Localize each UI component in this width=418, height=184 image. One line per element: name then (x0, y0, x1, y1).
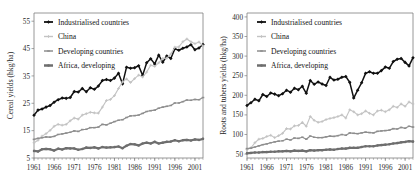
data-point (141, 142, 144, 145)
data-point (69, 132, 72, 134)
data-point (313, 149, 316, 152)
data-point (47, 20, 51, 24)
legend-label: China (271, 32, 290, 41)
data-point (297, 150, 300, 153)
data-point (317, 137, 320, 139)
legend-label: Industrialised countries (271, 18, 342, 27)
data-point (49, 148, 52, 151)
x-tick-label: 1981 (319, 164, 334, 172)
data-point (194, 99, 197, 101)
series-africa (33, 138, 205, 153)
data-point (412, 126, 415, 128)
x-tick-label: 1981 (107, 164, 122, 172)
data-point (341, 134, 344, 136)
data-point (269, 150, 272, 153)
data-point (105, 78, 109, 82)
data-point (352, 147, 355, 150)
data-point (260, 20, 264, 24)
data-point (81, 129, 84, 131)
data-point (349, 147, 352, 150)
data-point (73, 130, 76, 132)
data-point (265, 143, 268, 145)
data-point (297, 138, 300, 140)
y-tick-label: 5 (26, 155, 30, 163)
x-tick-label: 1961 (27, 164, 42, 172)
legend-label: China (58, 32, 77, 41)
data-point (305, 138, 308, 140)
data-point (392, 142, 395, 145)
x-tick-label: 1971 (67, 164, 82, 172)
y-tick-label: 250 (232, 72, 243, 80)
data-point (129, 66, 133, 70)
data-point (408, 126, 411, 128)
chart-panel-cereal: 5152535455519611966197119761981198619911… (0, 0, 209, 184)
data-point (293, 149, 296, 152)
data-point (321, 137, 324, 139)
legend-label: Developing countries (271, 47, 336, 56)
data-point (260, 35, 263, 38)
data-point (352, 133, 355, 135)
data-point (93, 127, 96, 129)
data-point (109, 146, 112, 149)
data-point (89, 147, 92, 150)
legend-item-developing: Developing countries (44, 47, 123, 56)
data-point (273, 150, 276, 153)
data-point (178, 102, 181, 104)
data-point (149, 110, 152, 112)
data-point (412, 140, 415, 143)
data-point (186, 139, 189, 142)
y-tick-label: 25 (23, 100, 31, 108)
data-point (178, 140, 181, 143)
data-point (145, 111, 148, 113)
data-point (133, 115, 136, 117)
data-point (174, 102, 177, 104)
data-point (157, 107, 160, 109)
data-point (157, 142, 160, 145)
data-point (194, 138, 197, 141)
data-point (372, 145, 375, 148)
data-point (161, 106, 164, 108)
data-point (396, 128, 399, 130)
legend-label: Developing countries (58, 47, 123, 56)
data-point (105, 146, 108, 149)
x-tick-label: 1996 (168, 164, 183, 172)
data-point (309, 135, 312, 137)
data-point (273, 141, 276, 143)
chart-panel-roots: 5010015020025030035040019611966197119761… (209, 0, 418, 184)
data-point (384, 143, 387, 146)
data-point (77, 131, 80, 133)
data-point (41, 137, 44, 139)
data-point (53, 149, 56, 152)
data-point (329, 135, 332, 137)
data-point (186, 99, 189, 101)
x-tick-label: 1996 (378, 164, 393, 172)
data-point (341, 147, 344, 150)
x-tick-label: 2001 (398, 164, 413, 172)
data-point (372, 132, 375, 134)
data-point (333, 149, 336, 152)
data-point (129, 115, 132, 117)
data-point (368, 145, 371, 148)
data-point (125, 144, 128, 147)
legend-item-china: China (44, 32, 77, 41)
y-tick-label: 45 (23, 45, 31, 53)
data-point (198, 139, 201, 142)
data-point (97, 126, 100, 128)
data-point (45, 136, 48, 138)
data-point (360, 146, 363, 149)
series-path (34, 98, 203, 140)
data-point (281, 140, 284, 142)
data-point (392, 128, 395, 130)
legend-label: Africa, developing (58, 61, 115, 70)
data-point (65, 132, 68, 134)
data-point (165, 106, 168, 108)
data-point (345, 147, 348, 150)
data-point (93, 146, 96, 149)
data-point (266, 151, 269, 154)
data-point (360, 132, 363, 134)
x-tick-label: 2001 (188, 164, 203, 172)
data-point (61, 133, 64, 135)
roots-and-tubers-yields-chart: 5010015020025030035040019611966197119761… (209, 0, 418, 184)
data-point (182, 139, 185, 142)
data-point (325, 136, 328, 138)
